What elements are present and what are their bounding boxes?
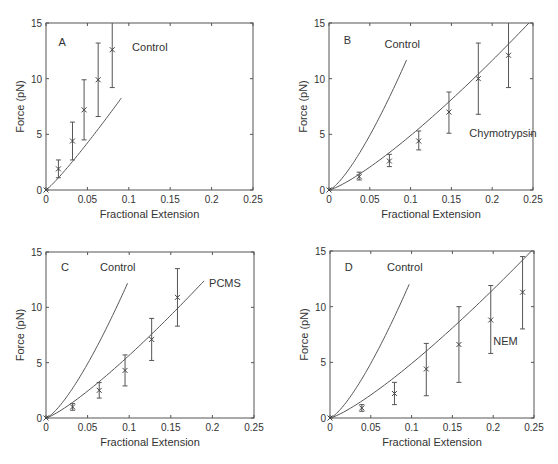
y-tick-label: 5 — [36, 129, 42, 140]
y-tick-label: 0 — [319, 185, 325, 196]
curve-label: NEM — [493, 335, 517, 347]
x-tick-label: 0.15 — [443, 422, 463, 433]
x-tick-label: 0.1 — [405, 422, 419, 433]
x-axis-title: Fractional Extension — [381, 208, 481, 220]
y-tick-label: 0 — [320, 413, 326, 424]
x-tick-label: 0.05 — [78, 422, 98, 433]
x-tick-label: 0.1 — [404, 194, 418, 205]
y-tick-label: 5 — [319, 129, 325, 140]
panel-c: 00.050.10.150.20.25051015Fractional Exte… — [14, 247, 264, 448]
y-axis-title: Force (pN) — [298, 308, 310, 361]
y-tick-label: 15 — [31, 247, 43, 258]
x-tick-label: 0.05 — [360, 194, 380, 205]
fit-curve-control — [329, 60, 407, 190]
fit-curve-nem — [330, 248, 534, 418]
y-axis-title: Force (pN) — [14, 309, 26, 362]
curve-label: Chymotrypsin — [469, 127, 536, 139]
y-tick-label: 15 — [31, 18, 43, 29]
y-tick-label: 10 — [31, 302, 43, 313]
x-axis-title: Fractional Extension — [100, 436, 200, 448]
x-tick-label: 0.2 — [486, 422, 500, 433]
y-axis-title: Force (pN) — [14, 80, 26, 133]
y-tick-label: 15 — [315, 246, 327, 257]
panel-a: 00.050.10.150.20.25051015Fractional Exte… — [14, 18, 263, 220]
y-tick-label: 10 — [315, 302, 327, 313]
x-tick-label: 0 — [327, 422, 333, 433]
x-tick-label: 0.1 — [122, 194, 136, 205]
curve-label: Control — [387, 261, 422, 273]
panel-d: 00.050.10.150.20.25051015Fractional Exte… — [298, 246, 544, 448]
x-tick-label: 0.15 — [160, 194, 180, 205]
y-tick-label: 10 — [31, 74, 43, 85]
x-tick-label: 0.2 — [205, 194, 219, 205]
fit-curve-control — [330, 284, 409, 418]
curve-label: PCMS — [209, 277, 241, 289]
fit-curve-control — [46, 283, 128, 418]
y-tick-label: 5 — [320, 357, 326, 368]
fit-curve-pcms — [46, 281, 204, 418]
axes-frame — [329, 23, 533, 190]
curve-label: Control — [132, 41, 167, 53]
panel-letter: D — [345, 261, 353, 273]
x-tick-label: 0 — [43, 422, 49, 433]
x-tick-label: 0.2 — [205, 422, 219, 433]
figure-canvas: 00.050.10.150.20.25051015Fractional Exte… — [0, 0, 558, 464]
x-tick-label: 0.25 — [524, 422, 544, 433]
x-tick-label: 0.2 — [485, 194, 499, 205]
panel-letter: B — [344, 34, 351, 46]
y-tick-label: 10 — [314, 74, 326, 85]
x-tick-label: 0.15 — [161, 422, 181, 433]
y-tick-label: 0 — [36, 413, 42, 424]
x-tick-label: 0 — [43, 194, 49, 205]
y-tick-label: 0 — [36, 185, 42, 196]
panel-letter: C — [61, 261, 69, 273]
x-tick-label: 0.25 — [244, 422, 264, 433]
panel-b: 00.050.10.150.20.25051015Fractional Exte… — [297, 18, 543, 220]
x-tick-label: 0 — [326, 194, 332, 205]
fit-curve-chymotrypsin — [329, 23, 529, 190]
curve-label: Control — [384, 38, 419, 50]
y-tick-label: 15 — [314, 18, 326, 29]
x-tick-label: 0.25 — [523, 194, 543, 205]
panel-letter: A — [58, 36, 66, 48]
y-tick-label: 5 — [36, 358, 42, 369]
x-tick-label: 0.05 — [361, 422, 381, 433]
x-tick-label: 0.1 — [122, 422, 136, 433]
x-tick-label: 0.15 — [442, 194, 462, 205]
x-axis-title: Fractional Extension — [382, 436, 482, 448]
curve-label: Control — [100, 261, 135, 273]
x-tick-label: 0.25 — [243, 194, 263, 205]
y-axis-title: Force (pN) — [297, 80, 309, 133]
x-axis-title: Fractional Extension — [100, 208, 200, 220]
x-tick-label: 0.05 — [78, 194, 98, 205]
